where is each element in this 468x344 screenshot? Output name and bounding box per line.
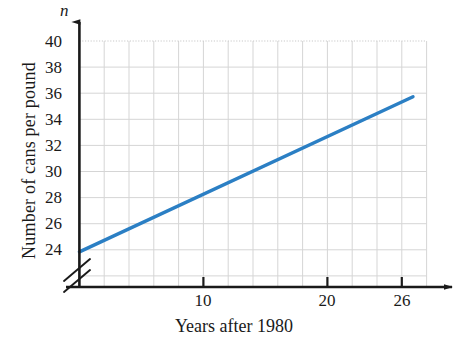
x-tick-label-26: 26 (382, 291, 422, 311)
chart-figure: n 40 38 36 34 32 30 28 26 24 10 20 26 Nu… (0, 0, 468, 344)
x-tick-label-10: 10 (183, 291, 223, 311)
x-axis-title: Years after 1980 (0, 316, 468, 337)
x-tick-label-20: 20 (307, 291, 347, 311)
y-axis-variable-n: n (60, 1, 69, 21)
y-axis-title: Number of cans per pound (19, 36, 40, 286)
